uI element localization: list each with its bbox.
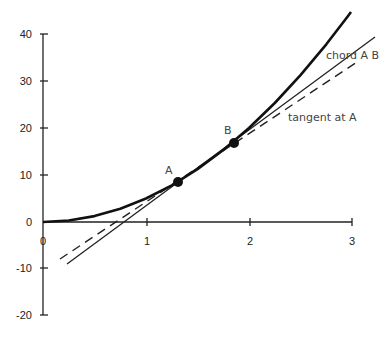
x-tick-label: 0 — [40, 235, 46, 247]
point-a-label: A — [165, 164, 173, 177]
y-tick-label: 40 — [20, 28, 32, 40]
y-tick-label: 30 — [20, 75, 32, 87]
x-tick-label: 1 — [144, 235, 150, 247]
chord-label: chord A B — [326, 49, 379, 62]
x-tick-label: 3 — [349, 235, 355, 247]
x-tick-label: 2 — [247, 235, 253, 247]
y-tick-labels: 40 30 20 10 0 -10 -20 — [16, 28, 32, 321]
y-tick-label: 0 — [26, 216, 32, 228]
y-tick-label: 10 — [20, 169, 32, 181]
y-tick-label: -20 — [16, 309, 32, 321]
y-tick-label: 20 — [20, 122, 32, 134]
point-b-label: B — [224, 124, 232, 137]
y-ticks — [40, 34, 48, 315]
chart: 40 30 20 10 0 -10 -20 0 1 2 3 A B chord … — [0, 0, 390, 340]
point-a — [173, 177, 183, 187]
point-b — [229, 138, 239, 148]
y-tick-label: -10 — [16, 262, 32, 274]
tangent-label: tangent at A — [288, 111, 357, 124]
